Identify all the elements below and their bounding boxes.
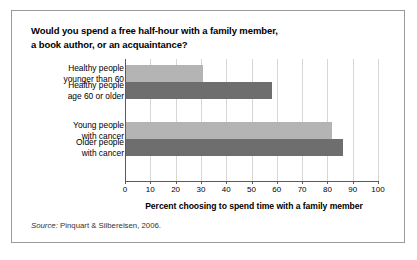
- x-tick-20: [176, 181, 177, 184]
- x-tick-70: [302, 181, 303, 184]
- gridline-40: [226, 59, 227, 181]
- x-tick-label-70: 70: [298, 185, 307, 194]
- x-tick-40: [226, 181, 227, 184]
- x-tick-label-100: 100: [371, 185, 384, 194]
- chart-plot: Healthy peopleyounger than 60Healthy peo…: [12, 11, 406, 244]
- source-label: Source:: [31, 221, 58, 230]
- x-axis: 0102030405060708090100: [125, 181, 378, 182]
- category-label-line: Young people: [22, 120, 124, 130]
- x-tick-50: [252, 181, 253, 184]
- x-tick-0: [125, 181, 126, 184]
- x-tick-label-80: 80: [323, 185, 332, 194]
- bar: [126, 65, 203, 82]
- bar: [126, 82, 272, 99]
- gridline-90: [353, 59, 354, 181]
- category-label-line: Older people: [22, 137, 124, 147]
- x-tick-label-30: 30: [196, 185, 205, 194]
- gridline-50: [252, 59, 253, 181]
- x-tick-30: [201, 181, 202, 184]
- category-label-line: age 60 or older: [22, 91, 124, 101]
- source-citation: Pinquart & Silbereisen, 2006.: [58, 221, 161, 230]
- bar: [126, 122, 332, 139]
- x-tick-label-40: 40: [222, 185, 231, 194]
- x-tick-label-60: 60: [272, 185, 281, 194]
- category-label-line: Healthy people: [22, 63, 124, 73]
- x-tick-label-0: 0: [123, 185, 127, 194]
- gridline-100: [378, 59, 379, 181]
- bars-area: [125, 59, 378, 181]
- bar: [126, 139, 343, 156]
- x-axis-title: Percent choosing to spend time with a fa…: [125, 201, 383, 211]
- category-label: Healthy peopleage 60 or older: [22, 80, 124, 100]
- x-tick-100: [378, 181, 379, 184]
- gridline-80: [327, 59, 328, 181]
- x-tick-90: [353, 181, 354, 184]
- x-tick-label-90: 90: [348, 185, 357, 194]
- x-tick-label-20: 20: [171, 185, 180, 194]
- x-tick-60: [277, 181, 278, 184]
- category-label-line: Healthy people: [22, 80, 124, 90]
- gridline-70: [302, 59, 303, 181]
- x-tick-label-50: 50: [247, 185, 256, 194]
- figure-panel: Would you spend a free half-hour with a …: [11, 10, 405, 243]
- gridline-60: [277, 59, 278, 181]
- category-label-line: with cancer: [22, 148, 124, 158]
- x-tick-label-10: 10: [146, 185, 155, 194]
- category-axis-labels: Healthy peopleyounger than 60Healthy peo…: [22, 59, 124, 181]
- x-tick-80: [327, 181, 328, 184]
- source-note: Source: Pinquart & Silbereisen, 2006.: [31, 221, 161, 230]
- category-label: Older peoplewith cancer: [22, 137, 124, 157]
- x-tick-10: [150, 181, 151, 184]
